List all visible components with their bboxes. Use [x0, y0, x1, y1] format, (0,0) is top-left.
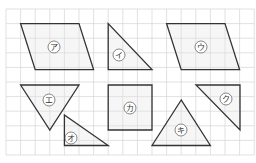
right-triangle-outline — [108, 24, 152, 70]
shape-label: キ — [177, 126, 185, 135]
shape-i: イ — [108, 24, 152, 70]
shape-ku: ク — [196, 85, 240, 130]
shape-label: オ — [67, 134, 75, 143]
shape-ka: カ — [108, 85, 152, 130]
shape-label: イ — [115, 51, 123, 60]
shape-label: ク — [222, 95, 230, 104]
shape-a: ア — [21, 24, 94, 70]
shapes-diagram: アイウエオカキク — [0, 0, 256, 163]
shape-label: ア — [50, 43, 58, 52]
shapes: アイウエオカキク — [21, 24, 240, 146]
shape-label: カ — [126, 104, 134, 113]
triangle-outline — [152, 100, 210, 146]
shape-label: エ — [45, 96, 53, 105]
right-triangle-outline — [196, 85, 240, 130]
shape-ki: キ — [152, 100, 210, 146]
shape-o: オ — [64, 115, 108, 146]
shape-u: ウ — [167, 24, 240, 70]
shape-label: ウ — [197, 43, 205, 52]
